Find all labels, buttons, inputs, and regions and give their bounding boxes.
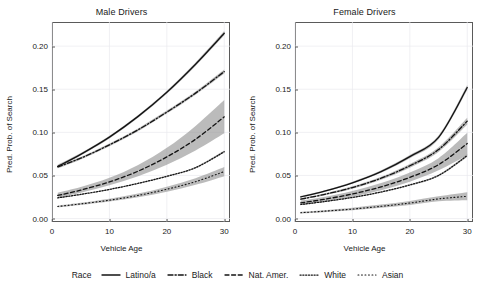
plot-svg-female: [295, 22, 473, 222]
x-tick-mark: [224, 219, 225, 222]
panel-title-female: Female Drivers: [243, 7, 486, 17]
x-tick-mark: [295, 219, 296, 222]
panel-title-male: Male Drivers: [0, 7, 243, 17]
panel-container: Male Drivers Pred. Prob. of Search 0.000…: [0, 0, 486, 255]
y-tick-mark: [52, 175, 55, 176]
y-tick-label: 0.15: [32, 85, 52, 94]
legend-line-icon: [101, 270, 121, 280]
legend-item-label: Nat. Amer.: [249, 270, 289, 280]
plot-area-male: 0.000.050.100.150.20 0102030: [52, 22, 230, 222]
y-tick-mark: [52, 46, 55, 47]
curve-latino-a: [301, 88, 468, 197]
x-tick-mark: [109, 219, 110, 222]
plot-svg-male: [52, 22, 230, 222]
x-tick-label: 10: [348, 222, 357, 236]
x-tick-label: 30: [220, 222, 229, 236]
legend: Race Latino/aBlackNat. Amer.WhiteAsian: [0, 264, 486, 286]
y-tick-mark: [52, 132, 55, 133]
y-tick-label: 0.15: [275, 85, 295, 94]
legend-item-asian[interactable]: Asian: [357, 270, 403, 280]
y-tick-mark: [295, 46, 298, 47]
y-tick-label: 0.20: [32, 42, 52, 51]
panel-female-drivers: Female Drivers Pred. Prob. of Search 0.0…: [243, 0, 486, 255]
legend-item-label: Latino/a: [126, 270, 156, 280]
y-tick-label: 0.05: [275, 171, 295, 180]
y-tick-label: 0.20: [275, 42, 295, 51]
legend-item-label: Black: [192, 270, 213, 280]
y-tick-label: 0.05: [32, 171, 52, 180]
x-tick-mark: [352, 219, 353, 222]
legend-line-icon: [299, 270, 319, 280]
y-tick-label: 0.10: [32, 128, 52, 137]
x-axis-label-female: Vehicle Age: [243, 244, 486, 253]
x-tick-label: 20: [162, 222, 171, 236]
legend-item-label: White: [324, 270, 346, 280]
y-axis-label-male: Pred. Prob. of Search: [2, 60, 16, 210]
legend-item-latino-a[interactable]: Latino/a: [101, 270, 156, 280]
legend-item-white[interactable]: White: [299, 270, 346, 280]
legend-item-label: Asian: [382, 270, 403, 280]
x-tick-label: 20: [405, 222, 414, 236]
x-tick-label: 0: [293, 222, 297, 236]
confidence-ribbon: [301, 85, 468, 198]
legend-line-icon: [357, 270, 377, 280]
x-axis-label-male: Vehicle Age: [0, 244, 243, 253]
x-tick-label: 10: [105, 222, 114, 236]
confidence-ribbon: [301, 192, 468, 213]
legend-item-nat-amer[interactable]: Nat. Amer.: [224, 270, 289, 280]
x-tick-mark: [467, 219, 468, 222]
legend-line-icon: [167, 270, 187, 280]
legend-title: Race: [72, 270, 92, 280]
y-tick-mark: [52, 89, 55, 90]
x-tick-mark: [52, 219, 53, 222]
legend-line-icon: [224, 270, 244, 280]
y-tick-label: 0.10: [275, 128, 295, 137]
y-tick-mark: [295, 132, 298, 133]
plot-area-female: 0.000.050.100.150.20 0102030: [295, 22, 473, 222]
figure: Male Drivers Pred. Prob. of Search 0.000…: [0, 0, 486, 290]
legend-item-black[interactable]: Black: [167, 270, 213, 280]
panel-male-drivers: Male Drivers Pred. Prob. of Search 0.000…: [0, 0, 243, 255]
x-tick-label: 30: [463, 222, 472, 236]
x-tick-mark: [410, 219, 411, 222]
x-tick-label: 0: [50, 222, 54, 236]
y-tick-mark: [295, 89, 298, 90]
y-tick-mark: [295, 175, 298, 176]
x-tick-mark: [167, 219, 168, 222]
y-axis-label-female: Pred. Prob. of Search: [245, 60, 259, 210]
